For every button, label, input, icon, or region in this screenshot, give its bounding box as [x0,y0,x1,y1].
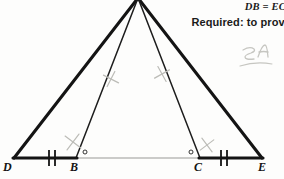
segment-AB [76,0,138,158]
vertex-label-C: C [194,160,202,175]
pencil-x-AB-icon [103,71,118,86]
required-statement: Required: to prove [191,16,284,28]
angle-marker-B [83,150,87,154]
pencil-x-angle-C-icon [200,138,214,152]
handwritten-note-sa [240,45,272,66]
given-statement: DB = EC [245,1,284,12]
figure-page: DB = EC Required: to prove D B C E [0,0,284,179]
pencil-x-angle-B-icon [65,134,81,150]
segment-AD [14,0,138,158]
vertex-label-E: E [258,160,266,175]
vertex-label-B: B [70,160,78,175]
vertex-label-D: D [3,160,12,175]
angle-marker-C [189,150,193,154]
